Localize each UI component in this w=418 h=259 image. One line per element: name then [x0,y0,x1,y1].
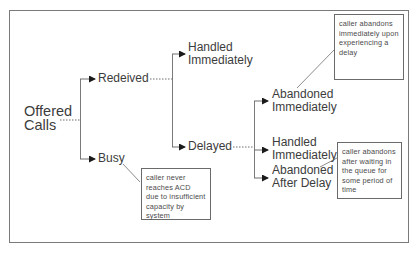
node-received: Redeived [98,72,149,85]
callout-abandoned-after-delay: caller abandons after waiting in the que… [337,142,402,199]
node-abandoned-immediately-line-2: Immediately [272,101,337,114]
callout-busy: caller never reaches ACD due to insuffic… [141,168,211,220]
node-offered-calls-line-1: Offered [24,104,72,118]
node-busy: Busy [98,152,125,165]
node-handled-immediately-1-line-2: Immediately [188,54,253,67]
node-handled-immediately-2-line-2: Immediately [272,149,337,162]
node-abandoned-after-delay-line-2: After Delay [272,177,333,190]
node-handled-immediately-1: Handled Immediately [188,41,253,67]
node-abandoned-immediately: Abandoned Immediately [272,88,337,114]
node-offered-calls-line-2: Calls [24,118,72,132]
node-delayed: Delayed [188,140,232,153]
node-abandoned-after-delay: Abandoned After Delay [272,164,333,190]
callout-abandoned-immediately: caller abandons immediately upon experie… [334,14,404,80]
node-offered-calls: Offered Calls [24,104,72,132]
node-handled-immediately-2: Handled Immediately [272,136,337,162]
